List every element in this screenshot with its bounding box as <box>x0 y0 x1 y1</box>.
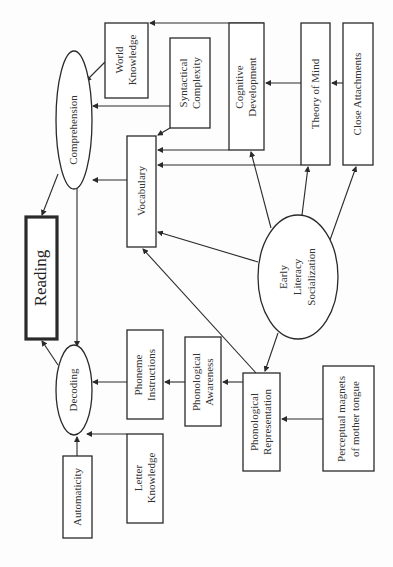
edge-els-closeattachments <box>330 167 356 240</box>
reading-model-diagram: Reading Comprehension Decoding World Kno… <box>0 0 393 567</box>
phonological-representation-line2: Representation <box>261 389 273 455</box>
node-world-knowledge: World Knowledge <box>105 23 148 98</box>
edge-els-phonorep <box>265 333 278 371</box>
node-theory-of-mind: Theory of Mind <box>301 23 330 165</box>
world-knowledge-line1: World <box>113 46 125 74</box>
phonological-awareness-line1: Phonological <box>190 353 202 411</box>
node-phonological-representation: Phonological Representation <box>243 373 280 471</box>
perceptual-magnets-line1: Perceptual magnets <box>335 376 347 462</box>
node-syntactical-complexity: Syntactical Complexity <box>170 38 210 128</box>
letter-knowledge-line1: Letter <box>132 465 144 492</box>
comprehension-label: Comprehension <box>67 95 79 165</box>
phonological-representation-line1: Phonological <box>248 393 260 451</box>
phoneme-instructions-line2: Instructions <box>145 349 157 401</box>
node-decoding: Decoding <box>56 345 92 435</box>
edge-comprehension-reading <box>42 174 58 215</box>
edge-els-cognitive <box>251 152 271 228</box>
node-letter-knowledge: Letter Knowledge <box>127 434 163 523</box>
syntactical-complexity-line2: Complexity <box>190 57 202 109</box>
edge-els-vocabulary <box>158 232 258 262</box>
perceptual-magnets-line2: of mother tongue <box>349 381 361 457</box>
automaticity-label: Automaticity <box>71 467 83 526</box>
node-phonological-awareness: Phonological Awareness <box>185 337 221 426</box>
edge-decoding-reading <box>42 341 58 365</box>
letter-knowledge-line2: Knowledge <box>145 453 157 504</box>
phoneme-instructions-line1: Phoneme <box>132 354 144 395</box>
node-phoneme-instructions: Phoneme Instructions <box>127 330 163 419</box>
syntactical-complexity-line1: Syntactical <box>177 59 189 108</box>
theory-of-mind-label: Theory of Mind <box>309 58 321 129</box>
node-close-attachments: Close Attachments <box>343 23 373 165</box>
world-knowledge-line2: Knowledge <box>126 35 138 86</box>
cognitive-development-line2: Development <box>246 57 258 116</box>
decoding-label: Decoding <box>67 368 79 411</box>
close-attachments-label: Close Attachments <box>351 53 363 136</box>
edge-els-theoryofmind <box>302 167 308 215</box>
cognitive-development-line1: Cognitive <box>233 65 245 109</box>
phonological-awareness-line2: Awareness <box>203 358 215 405</box>
edge-syntactical-vocabulary <box>158 128 170 135</box>
node-early-literacy-socialization: Early Literacy Socialization <box>258 215 338 339</box>
reading-label: Reading <box>31 249 50 306</box>
els-line3: Socialization <box>305 248 317 306</box>
node-cognitive-development: Cognitive Development <box>229 23 264 150</box>
vocabulary-label: Vocabulary <box>135 166 147 216</box>
els-line1: Early <box>277 265 289 289</box>
node-automaticity: Automaticity <box>63 456 92 538</box>
node-perceptual-magnets: Perceptual magnets of mother tongue <box>323 366 374 471</box>
els-line2: Literacy <box>291 258 303 295</box>
node-comprehension: Comprehension <box>56 51 92 189</box>
node-reading: Reading <box>26 217 57 339</box>
node-vocabulary: Vocabulary <box>127 136 156 247</box>
